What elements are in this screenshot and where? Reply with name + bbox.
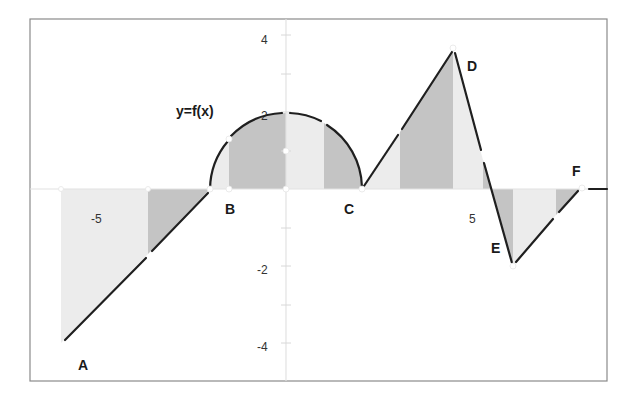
y-tick-label-neg2: -2 [257,263,268,277]
point-label-f: F [572,163,581,179]
function-label: y=f(x) [176,103,214,119]
point-label-a: A [78,357,88,373]
y-tick-label-4: 4 [261,33,268,47]
x-tick-label-neg5: -5 [91,212,102,226]
light-shaded-regions [61,50,556,343]
function-graph: 4 2 -2 -4 -5 5 y=f(x) A B C D E [0,0,619,412]
point-label-d: D [467,58,477,74]
point-label-c: C [344,201,354,217]
x-tick-label-5: 5 [469,212,476,226]
point-label-e: E [491,240,500,256]
point-label-b: B [225,201,235,217]
y-tick-label-neg4: -4 [257,340,268,354]
